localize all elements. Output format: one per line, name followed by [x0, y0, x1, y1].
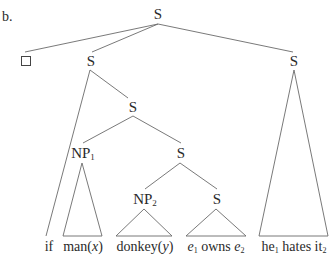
donkey-word: donkey( [117, 239, 163, 254]
leaf-man: man(x) [63, 240, 103, 254]
triangle-low-s [186, 209, 246, 236]
np1-base: NP [71, 145, 90, 161]
edge-left-s-mid-s [90, 70, 128, 98]
node-left-s: S [87, 54, 95, 69]
node-np1: NP1 [71, 146, 95, 161]
triangle-np1 [63, 163, 102, 236]
triangle-right-s [259, 70, 328, 236]
np1-subscript: 1 [90, 152, 95, 162]
edge-root-right-s [158, 24, 293, 52]
man-close: ) [98, 239, 103, 254]
edge-root-box [25, 24, 158, 52]
hates-verb: hates [279, 239, 315, 254]
tree-edges [0, 0, 335, 261]
edge-mid-s-inner-s [133, 116, 181, 143]
node-np2: NP2 [133, 192, 157, 207]
hates-he: he [262, 239, 275, 254]
owns-e2-sub: 2 [241, 246, 245, 255]
man-word: man( [63, 239, 92, 254]
donkey-close: ) [169, 239, 174, 254]
empty-box-node [21, 56, 31, 66]
example-label: b. [2, 9, 13, 25]
edge-mid-s-np1 [83, 116, 133, 143]
leaf-donkey: donkey(y) [117, 240, 174, 254]
node-inner-s: S [177, 146, 185, 161]
edge-inner-s-np2 [145, 163, 180, 189]
leaf-hates: he1 hates it2 [262, 240, 327, 254]
node-low-s: S [213, 192, 221, 207]
edge-root-left-s [92, 24, 158, 52]
node-mid-s: S [129, 100, 137, 115]
leaf-if: if [45, 240, 54, 254]
node-root-s: S [154, 7, 162, 22]
edge-inner-s-low-s [180, 163, 217, 189]
node-right-s: S [290, 54, 298, 69]
owns-verb: owns [198, 239, 235, 254]
np2-base: NP [133, 191, 152, 207]
np2-subscript: 2 [152, 198, 157, 208]
hates-it-sub: 2 [322, 246, 326, 255]
hates-it: it [315, 239, 323, 254]
triangle-np2 [116, 209, 172, 236]
leaf-owns: e1 owns e2 [188, 240, 245, 254]
